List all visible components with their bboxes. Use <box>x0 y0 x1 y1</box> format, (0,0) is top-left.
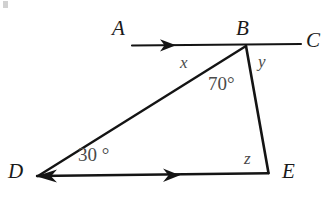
vertex-label-c: C <box>306 30 320 51</box>
vertex-label-e: E <box>282 161 295 182</box>
line-segment-ac <box>132 44 301 46</box>
line-segment-de <box>37 173 269 176</box>
vertex-label-d: D <box>8 161 23 182</box>
line-segment-db <box>38 46 246 176</box>
vertex-label-a: A <box>112 18 125 39</box>
geometry-figure: B ---- C (horizontal top line) --> A B C… <box>0 0 327 199</box>
segment-label-y: y <box>258 53 266 70</box>
segment-label-x: x <box>180 54 188 71</box>
segment-label-z: z <box>244 150 251 167</box>
angle-label-70: 70° <box>208 74 235 93</box>
diagram-canvas: B ---- C (horizontal top line) --> <box>0 0 327 199</box>
angle-label-30: 30 ° <box>78 145 109 164</box>
vertex-label-b: B <box>236 18 249 39</box>
